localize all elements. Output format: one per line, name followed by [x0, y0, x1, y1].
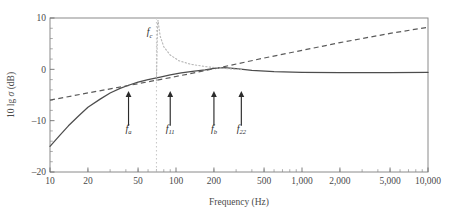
x-tick-label-100: 100 — [169, 176, 184, 186]
x-tick-label-200: 200 — [207, 176, 222, 186]
y-tick-label--10: –10 — [31, 116, 47, 126]
chart-figure: 1020501002005001,0002,0005,00010,000–20–… — [0, 0, 457, 209]
chart-canvas: 1020501002005001,0002,0005,00010,000–20–… — [0, 0, 457, 209]
x-tick-label-2000: 2,000 — [329, 176, 351, 186]
y-tick-label--20: –20 — [31, 167, 47, 177]
x-tick-label-10: 10 — [45, 176, 55, 186]
x-tick-label-500: 500 — [257, 176, 272, 186]
x-tick-label-20: 20 — [83, 176, 93, 186]
y-tick-label-0: 0 — [41, 65, 46, 75]
annotation-fc: fc — [147, 26, 153, 38]
x-tick-label-1000: 1,000 — [291, 176, 313, 186]
series-theoretical-asymptote — [50, 27, 428, 100]
arrow-head-fb — [211, 91, 217, 97]
arrow-head-f22 — [238, 91, 244, 97]
y-tick-label-10: 10 — [37, 13, 47, 23]
y-axis-title: 10 lg σ (dB) — [6, 72, 17, 118]
x-tick-label-50: 50 — [133, 176, 143, 186]
x-tick-label-5000: 5,000 — [379, 176, 401, 186]
arrow-head-fa — [126, 91, 132, 97]
x-tick-label-10000: 10,000 — [415, 176, 441, 186]
x-axis-title: Frequency (Hz) — [209, 197, 269, 208]
arrow-head-f11 — [167, 91, 173, 97]
